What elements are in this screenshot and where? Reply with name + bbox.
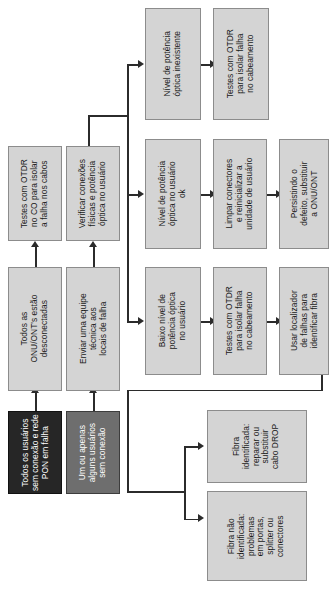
connector-split-vertical bbox=[184, 446, 186, 520]
node-start-all-users-label: Todos os usuários sem conexão e rede PON… bbox=[20, 414, 49, 491]
node-replace-onu-label: Persistindo o defeito, substituir a ONU/… bbox=[289, 162, 318, 226]
node-fiber-identified-label: Fibra identificada: reparar ou substitui… bbox=[233, 424, 282, 469]
node-fault-locator[interactable]: Usar localizador de falhas para identifi… bbox=[279, 267, 329, 375]
connector-team-to-check bbox=[93, 247, 95, 267]
node-fiber-identified[interactable]: Fibra identificada: reparar ou substitui… bbox=[207, 410, 307, 483]
node-clean-connectors-label: Limpar conectores e reinicializar a unid… bbox=[225, 158, 254, 230]
node-fiber-not-identified-label: Fibra não identificada: problemas em por… bbox=[228, 513, 287, 558]
node-check-connections[interactable]: Verificar conexões físicas e potência óp… bbox=[66, 146, 120, 241]
node-clean-connectors[interactable]: Limpar conectores e reinicializar a unid… bbox=[213, 139, 267, 249]
node-otdr-cabling-tests-a[interactable]: Testes com OTDR para isolar falha no cab… bbox=[213, 8, 269, 120]
arrowhead-fiber-identified bbox=[198, 442, 204, 450]
node-start-some-users-label: Um ou apenas alguns usuários sem conexão bbox=[78, 423, 107, 482]
arrowhead-check-connections bbox=[89, 241, 97, 247]
flowchart-canvas: Todos os usuários sem conexão e rede PON… bbox=[0, 0, 329, 591]
connector-start-all-to-onu bbox=[35, 393, 37, 411]
node-check-connections-label: Verificar conexões físicas e potência óp… bbox=[78, 159, 107, 228]
node-send-technical-team[interactable]: Enviar uma equipe técnica aos locais de … bbox=[66, 267, 120, 391]
arrowhead-power-ok bbox=[138, 190, 144, 198]
connector-split-riser bbox=[127, 390, 129, 493]
node-power-nonexistent[interactable]: Nível de potência óptica inexistente bbox=[145, 8, 201, 120]
node-power-ok-label: Nível de potência óptica no usuário ok bbox=[158, 161, 187, 227]
node-replace-onu[interactable]: Persistindo o defeito, substituir a ONU/… bbox=[279, 139, 329, 249]
arrowhead-low-power bbox=[138, 317, 144, 325]
node-otdr-cabling-tests-b[interactable]: Testes com OTDR para isolar falha no cab… bbox=[213, 267, 267, 375]
node-all-onu-disconnected[interactable]: Todos as ONU/ONT's estão desconectadas bbox=[8, 267, 62, 391]
node-low-power[interactable]: Baixo nível de potência óptica no usuári… bbox=[145, 267, 201, 375]
node-send-technical-team-label: Enviar uma equipe técnica aos locais de … bbox=[78, 294, 107, 365]
node-otdr-co-tests-label: Testes com OTDR no CO para isolar a falh… bbox=[20, 159, 49, 228]
connector-start-some-to-team bbox=[93, 393, 95, 411]
connector-split-base bbox=[127, 491, 185, 493]
arrowhead-power-nonexistent bbox=[138, 60, 144, 68]
connector-locator-to-left bbox=[127, 390, 322, 392]
arrowhead-fiber-not-identified bbox=[198, 514, 204, 522]
connector-trunk-vertical bbox=[127, 64, 129, 322]
node-start-all-users[interactable]: Todos os usuários sem conexão e rede PON… bbox=[8, 411, 62, 494]
node-power-ok[interactable]: Nível de potência óptica no usuário ok bbox=[145, 139, 201, 249]
node-power-nonexistent-label: Nível de potência óptica inexistente bbox=[163, 31, 183, 97]
node-fault-locator-label: Usar localizador de falhas para identifi… bbox=[289, 291, 318, 352]
arrowhead-otdr-co bbox=[31, 241, 39, 247]
node-otdr-co-tests[interactable]: Testes com OTDR no CO para isolar a falh… bbox=[8, 146, 62, 241]
connector-onu-to-otdr-co bbox=[35, 247, 37, 267]
node-start-some-users[interactable]: Um ou apenas alguns usuários sem conexão bbox=[66, 411, 120, 494]
node-fiber-not-identified[interactable]: Fibra não identificada: problemas em por… bbox=[207, 491, 307, 581]
node-otdr-cabling-tests-b-label: Testes com OTDR para isolar falha no cab… bbox=[225, 286, 254, 355]
node-all-onu-disconnected-label: Todos as ONU/ONT's estão desconectadas bbox=[20, 295, 49, 363]
node-low-power-label: Baixo nível de potência óptica no usuári… bbox=[158, 292, 187, 349]
connector-check-riser bbox=[88, 115, 90, 146]
node-otdr-cabling-tests-a-label: Testes com OTDR para isolar falha no cab… bbox=[226, 29, 255, 98]
connector-check-to-trunk bbox=[88, 115, 129, 117]
